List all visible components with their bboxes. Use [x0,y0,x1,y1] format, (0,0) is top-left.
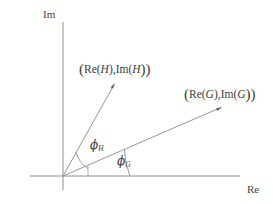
vector-h-label-re: Re( [84,63,101,75]
vector-g-label-mid: ),Im( [214,88,237,100]
complex-plane-diagram [0,0,273,204]
imaginary-axis-label: Im [43,9,55,20]
angle-label-phi-h: ϕH [90,139,104,153]
phi-g-subscript: G [125,160,130,169]
vector-g-label-variable-2: G [237,88,245,100]
angle-label-phi-g: ϕG [117,155,131,169]
vector-h-point-label: (Re(H),Im(H)) [79,62,151,77]
vector-h-label-close-paren: )) [141,61,151,77]
real-axis-label: Re [247,184,259,195]
vector-h-label-mid: ),Im( [109,63,132,75]
vector-g-label-close-paren: )) [246,86,256,102]
figure-background [0,0,273,204]
vector-h-label-variable-2: H [132,63,140,75]
vector-g-point-label: (Re(G),Im(G)) [184,87,256,102]
vector-g-label-re: Re( [189,88,206,100]
vector-h-label-variable-1: H [101,63,109,75]
phi-h-symbol: ϕ [90,138,98,152]
phi-h-subscript: H [98,144,103,153]
vector-g-label-variable-1: G [206,88,214,100]
phi-g-symbol: ϕ [117,154,125,168]
